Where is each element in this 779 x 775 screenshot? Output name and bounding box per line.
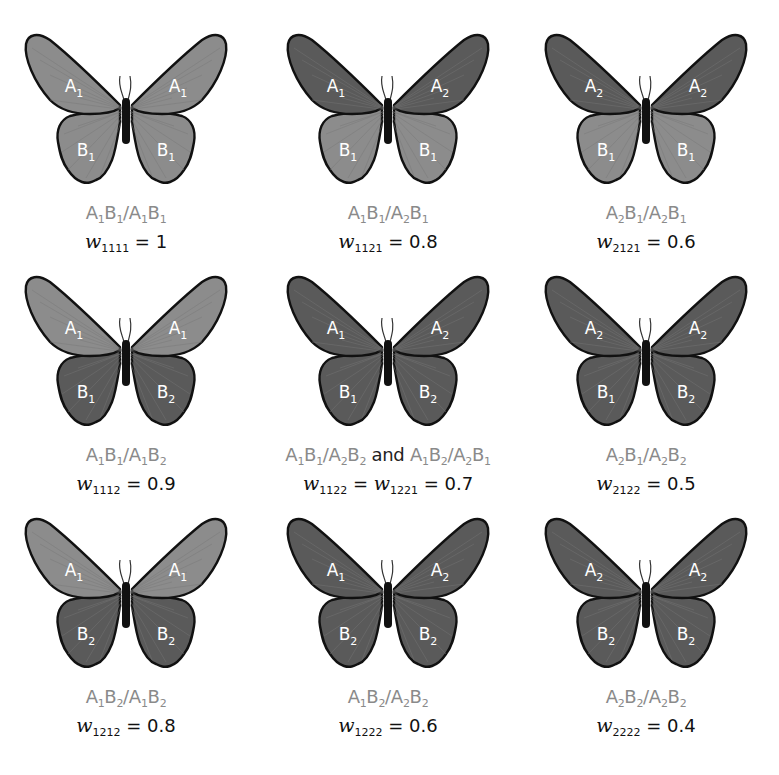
- genotype-label: A1B1/A1B2: [6, 444, 246, 465]
- fitness-label: w1121 = 0.8: [268, 230, 508, 252]
- butterfly-body: [122, 582, 130, 628]
- antennae: [639, 560, 650, 584]
- antennae: [119, 560, 130, 584]
- butterfly-body: [642, 340, 650, 386]
- antennae: [381, 318, 392, 342]
- hind-wing-left: [578, 108, 641, 183]
- joiner-text: and: [372, 444, 405, 465]
- hind-wing-left: [578, 592, 641, 667]
- genotype-label: A2B2/A2B2: [526, 686, 766, 707]
- butterfly-cell-3-3: A2 A2 B2 B2 A2B2/A2B2w2222 = 0.4: [526, 514, 766, 764]
- hind-wing-left: [320, 350, 383, 425]
- antennae: [639, 318, 650, 342]
- genotype-label: A1B2/A2B2: [268, 686, 508, 707]
- butterfly-illustration: A1 A1 B1 B2: [20, 272, 232, 432]
- butterfly-cell-2-2: A1 A2 B1 B2 A1B1/A2B2 and A1B2/A2B1w1122…: [268, 272, 508, 522]
- butterfly-illustration: A1 A1 B2 B2: [20, 514, 232, 674]
- butterfly-body: [642, 582, 650, 628]
- antennae: [381, 76, 392, 100]
- butterfly-body: [384, 340, 392, 386]
- antennae: [639, 76, 650, 100]
- genotype-label: A1B1/A1B1: [6, 202, 246, 223]
- fitness-label: w1222 = 0.6: [268, 714, 508, 736]
- butterfly-illustration: A2 A2 B1 B2: [540, 272, 752, 432]
- genotype-label: A1B1/A2B2 and A1B2/A2B1: [238, 444, 538, 465]
- butterfly-body: [642, 98, 650, 144]
- butterfly-cell-2-3: A2 A2 B1 B2 A2B1/A2B2w2122 = 0.5: [526, 272, 766, 522]
- butterfly-body: [384, 582, 392, 628]
- butterfly-illustration: A1 A2 B2 B2: [282, 514, 494, 674]
- fitness-label: w2122 = 0.5: [526, 472, 766, 494]
- hind-wing-left: [58, 592, 121, 667]
- butterfly-illustration: A1 A1 B1 B1: [20, 30, 232, 190]
- butterfly-illustration: A2 A2 B1 B1: [540, 30, 752, 190]
- butterfly-cell-2-1: A1 A1 B1 B2 A1B1/A1B2w1112 = 0.9: [6, 272, 246, 522]
- butterfly-body: [384, 98, 392, 144]
- fitness-label: w2121 = 0.6: [526, 230, 766, 252]
- hind-wing-left: [58, 108, 121, 183]
- butterfly-illustration: A1 A2 B1 B1: [282, 30, 494, 190]
- butterfly-body: [122, 340, 130, 386]
- genotype-label: A1B1/A2B1: [268, 202, 508, 223]
- hind-wing-left: [578, 350, 641, 425]
- butterfly-body: [122, 98, 130, 144]
- antennae: [119, 318, 130, 342]
- hind-wing-left: [320, 592, 383, 667]
- genotype-label: A2B1/A2B1: [526, 202, 766, 223]
- antennae: [119, 76, 130, 100]
- fitness-label: w1111 = 1: [6, 230, 246, 252]
- butterfly-illustration: A1 A2 B1 B2: [282, 272, 494, 432]
- genotype-label: A2B1/A2B2: [526, 444, 766, 465]
- hind-wing-left: [320, 108, 383, 183]
- fitness-label: w1212 = 0.8: [6, 714, 246, 736]
- butterfly-cell-3-1: A1 A1 B2 B2 A1B2/A1B2w1212 = 0.8: [6, 514, 246, 764]
- butterfly-cell-3-2: A1 A2 B2 B2 A1B2/A2B2w1222 = 0.6: [268, 514, 508, 764]
- hind-wing-left: [58, 350, 121, 425]
- fitness-label: w1122 = w1221 = 0.7: [238, 472, 538, 494]
- butterfly-cell-1-2: A1 A2 B1 B1 A1B1/A2B1w1121 = 0.8: [268, 30, 508, 280]
- antennae: [381, 560, 392, 584]
- butterfly-illustration: A2 A2 B2 B2: [540, 514, 752, 674]
- butterfly-cell-1-1: A1 A1 B1 B1 A1B1/A1B1w1111 = 1: [6, 30, 246, 280]
- butterfly-cell-1-3: A2 A2 B1 B1 A2B1/A2B1w2121 = 0.6: [526, 30, 766, 280]
- genotype-label: A1B2/A1B2: [6, 686, 246, 707]
- fitness-label: w1112 = 0.9: [6, 472, 246, 494]
- fitness-label: w2222 = 0.4: [526, 714, 766, 736]
